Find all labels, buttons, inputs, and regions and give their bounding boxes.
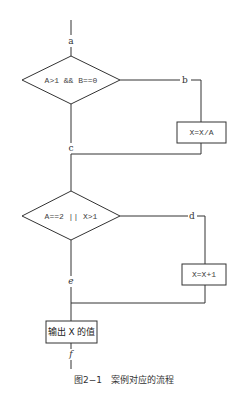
figure-caption: 图2−1 案例对应的流程 [74,374,174,385]
decision-2-text: A==2 || X>1 [45,212,98,221]
path-label-d: d [189,211,195,221]
path-label-c: c [68,143,73,153]
output-text: 输出 X 的值 [48,326,96,337]
process-2-text: X=X+1 [192,270,216,279]
path-label-a: a [68,36,74,46]
edge-process2-merge [71,285,205,303]
flowchart: a A>1 && B==0 b X=X/A c A==2 || X>1 d X=… [0,0,241,402]
path-label-e: e [68,276,73,286]
path-label-b: b [182,75,188,85]
process-1-text: X=X/A [189,128,213,137]
edge-d-right [197,216,205,264]
path-label-f: f [68,349,74,359]
edge-process1-merge [71,143,201,154]
edge-b-right [191,80,201,122]
decision-1-text: A>1 && B==0 [45,76,98,85]
